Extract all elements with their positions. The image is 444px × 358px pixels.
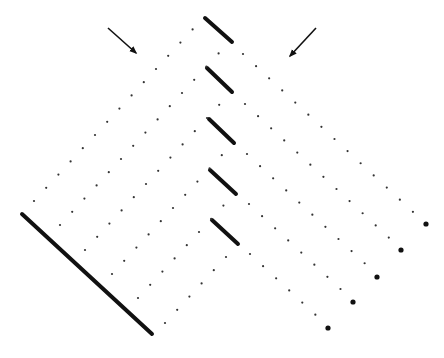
right-lattice-dot [324, 226, 326, 228]
left-lattice-dot [193, 79, 195, 81]
left-lattice-dot [213, 269, 215, 271]
right-lattice-dot [272, 177, 274, 179]
short-segment [207, 68, 232, 92]
left-lattice-dot [121, 209, 123, 211]
left-lattice-dot [164, 322, 166, 324]
right-lattice-dot [399, 199, 401, 201]
left-lattice-dot [172, 207, 174, 209]
right-lattice-dot [301, 301, 303, 303]
left-lattice-dot [205, 66, 207, 68]
left-lattice-dot [82, 147, 84, 149]
left-lattice-dot [201, 282, 203, 284]
right-lattice-dot [281, 89, 283, 91]
right-lattice-dot [314, 314, 316, 316]
left-lattice-dot [145, 183, 147, 185]
short-segment [210, 170, 236, 194]
left-lattice-dot [133, 196, 135, 198]
end-marker-dot [423, 221, 428, 226]
right-lattice-dot [412, 211, 414, 213]
right-lattice-dot [275, 277, 277, 279]
left-lattice-dot [210, 218, 212, 220]
right-lattice-dot [248, 203, 250, 205]
left-lattice-dot [209, 167, 211, 169]
left-lattice-dot [218, 104, 220, 106]
right-lattice-dot [309, 164, 311, 166]
right-lattice-dot [346, 150, 348, 152]
left-lattice-dot [57, 174, 59, 176]
left-lattice-dot [169, 105, 171, 107]
left-lattice-dot [196, 181, 198, 183]
right-lattice-dot [386, 186, 388, 188]
left-lattice-dot [83, 198, 85, 200]
right-lattice-dot [320, 126, 322, 128]
left-lattice-dot [182, 143, 184, 145]
left-lattice-dot [94, 134, 96, 136]
right-lattice-dot [313, 264, 315, 266]
left-lattice-dot [143, 81, 145, 83]
end-marker-dot [350, 299, 355, 304]
left-arrow-icon [108, 28, 136, 53]
right-lattice-dot [242, 53, 244, 55]
right-lattice-dot [388, 236, 390, 238]
left-lattice-dot [174, 257, 176, 259]
long-line [22, 214, 152, 334]
right-arrow-icon [290, 28, 316, 56]
left-lattice-dot [184, 194, 186, 196]
right-lattice-dot [298, 201, 300, 203]
right-lattice-dot [259, 165, 261, 167]
end-marker-dot [325, 325, 330, 330]
right-lattice-dot [261, 215, 263, 217]
left-lattice-dot [135, 247, 137, 249]
left-lattice-dot [149, 284, 151, 286]
left-lattice-dot [218, 52, 220, 54]
right-lattice-dot [339, 288, 341, 290]
end-marker-dot [374, 274, 379, 279]
left-lattice-dot [33, 200, 35, 202]
dot-lattice-diagram [0, 0, 444, 358]
right-lattice-dot [262, 265, 264, 267]
left-lattice-dot [148, 233, 150, 235]
right-lattice-dot [270, 127, 272, 129]
left-lattice-dot [108, 171, 110, 173]
left-lattice-dot [194, 130, 196, 132]
left-lattice-dot [160, 220, 162, 222]
left-lattice-dot [225, 256, 227, 258]
left-lattice-dot [123, 260, 125, 262]
left-lattice-dot [157, 170, 159, 172]
left-lattice-dot [161, 271, 163, 273]
right-lattice-dot [322, 176, 324, 178]
left-lattice-dot [188, 296, 190, 298]
left-lattice-dot [131, 94, 133, 96]
left-lattice-dot [71, 211, 73, 213]
left-lattice-dot [157, 118, 159, 120]
right-lattice-dot [287, 239, 289, 241]
right-lattice-dot [268, 77, 270, 79]
right-lattice-dot [307, 114, 309, 116]
left-lattice-dot [192, 28, 194, 30]
right-lattice-dot [362, 212, 364, 214]
left-lattice-dot [176, 309, 178, 311]
short-segment [212, 220, 238, 244]
arrow-group [108, 28, 316, 56]
right-lattice-dot [246, 153, 248, 155]
right-lattice-dot [274, 227, 276, 229]
long-diagonal-line [22, 214, 152, 334]
left-lattice-dot [221, 154, 223, 156]
left-lattice-dot [59, 224, 61, 226]
end-marker-dot [398, 247, 403, 252]
right-lattice-dot [257, 115, 259, 117]
right-lattice-dot [300, 251, 302, 253]
left-lattice-dot [120, 158, 122, 160]
right-dot-lattice [242, 53, 429, 331]
short-segment [205, 18, 232, 42]
left-lattice-dot [108, 223, 110, 225]
right-lattice-dot [249, 253, 251, 255]
left-lattice-dot [144, 132, 146, 134]
short-segment-group [205, 18, 238, 244]
right-lattice-dot [348, 200, 350, 202]
right-lattice-dot [288, 289, 290, 291]
left-lattice-dot [96, 236, 98, 238]
right-lattice-dot [375, 224, 377, 226]
right-lattice-dot [350, 250, 352, 252]
right-lattice-dot [283, 139, 285, 141]
